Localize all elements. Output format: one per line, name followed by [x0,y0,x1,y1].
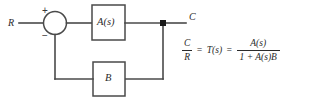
equation-rhs-numerator: A(s) [247,38,269,49]
equation-equals-second: = [222,45,236,55]
equation-equals-first: = [192,45,206,55]
feedback-block-label: B [105,73,111,84]
takeoff-node-dot [160,20,166,26]
summing-plus-sign: + [42,6,48,16]
equation-lhs-fraction: C R [182,38,192,63]
block-diagram-figure: R C + − A(s) B C R = T(s) = A(s) 1 + A(s… [0,0,313,102]
output-signal-label: C [189,12,196,22]
equation-lhs-numerator: C [182,38,192,49]
forward-block-label: A(s) [97,17,115,28]
equation-rhs-fraction: A(s) 1 + A(s)B [237,38,280,63]
input-signal-label: R [8,18,14,28]
summing-minus-sign: − [42,31,48,41]
equation-lhs-fraction-bar [182,50,192,51]
transfer-function-equation: C R = T(s) = A(s) 1 + A(s)B [182,38,280,63]
equation-lhs-denominator: R [182,52,192,63]
equation-transfer-symbol: T(s) [207,45,222,55]
equation-rhs-fraction-bar [237,50,280,51]
equation-rhs-denominator: 1 + A(s)B [237,52,280,63]
